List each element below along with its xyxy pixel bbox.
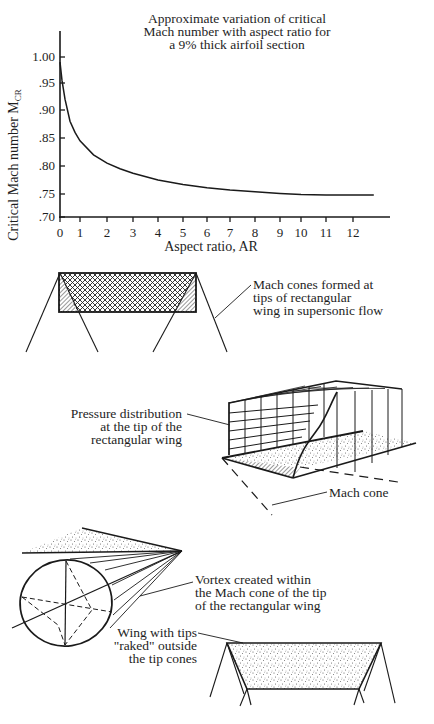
raked-wing-diagram: Wing with tips "raked" outside the tip c… [114, 625, 395, 706]
y-tick-label: .95 [39, 75, 55, 90]
raked-wing [227, 643, 381, 689]
vortex-dashed-line [22, 597, 112, 612]
right-tip-cone-outer [381, 643, 395, 703]
rectangular-wing [59, 273, 196, 312]
mach-cones-leader [215, 285, 251, 318]
x-tick-label: 10 [295, 225, 308, 240]
x-tick-label: 3 [130, 225, 137, 240]
x-axis-label: Aspect ratio, AR [164, 239, 258, 254]
y-tick-label: .90 [39, 102, 55, 117]
vortex-vertical [65, 561, 66, 645]
right-cone-outer-line [196, 273, 227, 352]
x-tick-label: 5 [180, 225, 187, 240]
x-tick-label: 11 [320, 225, 333, 240]
x-ticks: 0123456789101112 [57, 217, 360, 240]
left-cone-outer-line [26, 273, 60, 352]
mach-cone-leader [272, 492, 327, 505]
pressure-leader [187, 414, 230, 425]
y-tick-label: .75 [39, 186, 55, 201]
mach-cone-dashed-line-2 [300, 467, 398, 482]
figure-canvas: Approximate variation of critical Mach n… [0, 0, 434, 724]
x-tick-label: 12 [347, 225, 360, 240]
right-root-line-b [359, 689, 364, 703]
vortex-label-3: of the rectangular wing [195, 598, 321, 613]
vortex-leader [140, 582, 193, 596]
mach-cone-label: Mach cone [329, 485, 389, 500]
y-tick-label: .85 [39, 130, 55, 145]
y-tick-label: .70 [39, 209, 55, 224]
pressure-top-outline [229, 381, 402, 403]
x-tick-label: 6 [204, 225, 211, 240]
y-axis-label: Critical Mach number MCR [6, 89, 23, 241]
x-tick-label: 4 [155, 225, 162, 240]
mach-cones-diagram: Mach cones formed at tips of rectangular… [26, 273, 383, 352]
x-tick-label: 2 [104, 225, 111, 240]
pressure-distribution-diagram: Pressure distribution at the tip of the … [71, 381, 416, 515]
chart-title-line-3: a 9% thick airfoil section [169, 37, 305, 52]
x-tick-label: 9 [277, 225, 284, 240]
vortex-stippled-sheet [22, 528, 182, 553]
x-tick-label: 1 [77, 225, 84, 240]
y-tick-label: 1.00 [32, 49, 55, 64]
x-tick-label: 8 [252, 225, 259, 240]
vortex-axis [12, 551, 182, 628]
critical-mach-curve [60, 62, 374, 195]
pressure-label-3: rectangular wing [91, 432, 182, 447]
right-root-line-a [354, 689, 359, 705]
raked-label-3: the tip cones [129, 651, 197, 666]
y-tick-label: .80 [39, 158, 55, 173]
x-tick-label: 0 [57, 225, 64, 240]
vortex-dashed-tri-1 [65, 561, 92, 645]
left-root-line-b [247, 689, 251, 705]
mach-cones-label-3: wing in supersonic flow [253, 303, 383, 318]
chart: Approximate variation of critical Mach n… [6, 11, 390, 254]
x-tick-label: 7 [227, 225, 234, 240]
left-tip-cone-outer [210, 643, 227, 697]
raked-wing-leader [198, 633, 243, 643]
